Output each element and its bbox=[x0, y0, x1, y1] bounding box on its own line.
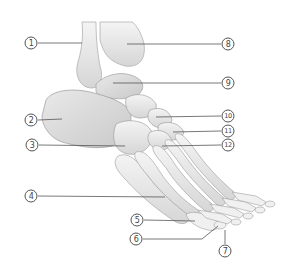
label-8: 8 bbox=[222, 38, 235, 51]
label-10: 10 bbox=[222, 110, 235, 123]
label-7: 7 bbox=[219, 245, 232, 258]
label-9: 9 bbox=[222, 77, 235, 90]
label-12: 12 bbox=[222, 139, 235, 152]
label-2: 2 bbox=[25, 114, 38, 127]
label-6: 6 bbox=[130, 233, 143, 246]
label-1: 1 bbox=[25, 37, 38, 50]
label-5: 5 bbox=[131, 214, 144, 227]
label-11: 11 bbox=[222, 125, 235, 138]
foot-skeleton-diagram: 123456789101112 bbox=[0, 0, 285, 280]
label-3: 3 bbox=[26, 139, 39, 152]
foot-bones-illustration bbox=[0, 0, 285, 280]
label-4: 4 bbox=[25, 190, 38, 203]
